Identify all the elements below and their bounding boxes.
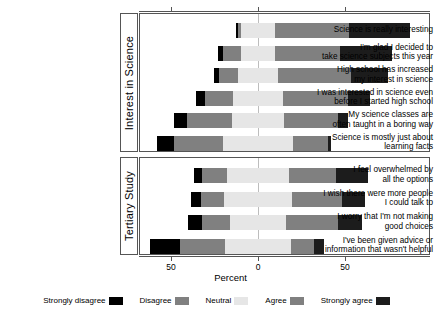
panel-strip-text: Tertiary Study: [123, 171, 135, 241]
legend-item: Agree: [265, 296, 303, 305]
chart-legend: Strongly disagreeDisagreeNeutralAgreeStr…: [0, 296, 433, 305]
legend-swatch: [290, 297, 304, 305]
bar-segment-disagree: [180, 239, 225, 254]
bar-segment-strongly-disagree: [174, 113, 186, 128]
legend-swatch: [376, 297, 390, 305]
bar-segment-neutral: [233, 91, 283, 106]
bar-segment-strongly-disagree: [157, 136, 174, 151]
legend-item: Strongly disagree: [43, 296, 122, 305]
top-axis-tick: [258, 7, 259, 11]
y-axis-item-label: My science classes areoften taught in a …: [315, 110, 433, 129]
bar-segment-neutral: [224, 192, 292, 207]
bar-segment-strongly-disagree: [196, 91, 205, 106]
legend-label: Disagree: [140, 296, 172, 305]
bottom-axis-tick: [345, 257, 346, 261]
y-axis-item-label: I feel overwhelmed byall the options: [315, 165, 433, 184]
y-axis-item-label: High school has increasedmy interest in …: [315, 65, 433, 84]
bar-segment-neutral: [230, 215, 286, 230]
bar-segment-strongly-disagree: [150, 239, 180, 254]
y-axis-item-label: I worry that I'm not makinggood choices: [315, 212, 433, 231]
legend-item: Strongly agree: [321, 296, 390, 305]
top-axis-tick: [171, 7, 172, 11]
bar-segment-disagree: [202, 168, 226, 183]
panel-strip-label-interest: Interest in Science: [120, 13, 138, 152]
bar-segment-neutral: [238, 68, 278, 83]
x-axis-title: Percent: [14, 272, 438, 283]
x-tick-label: 0: [243, 262, 273, 272]
panel-strip-text: Interest in Science: [123, 35, 135, 129]
legend-item: Neutral: [206, 296, 249, 305]
legend-label: Strongly disagree: [43, 296, 105, 305]
x-tick-label: 50: [156, 262, 186, 272]
legend-label: Neutral: [206, 296, 232, 305]
bar-segment-disagree: [174, 136, 223, 151]
bar-segment-strongly-disagree: [194, 168, 203, 183]
legend-item: Disagree: [140, 296, 189, 305]
bar-segment-disagree: [219, 68, 238, 83]
top-axis-line: [139, 11, 430, 12]
bar-segment-neutral: [225, 239, 291, 254]
bar-segment-disagree: [205, 91, 233, 106]
bottom-axis-tick: [258, 257, 259, 261]
bar-segment-disagree: [187, 113, 232, 128]
bar-segment-disagree: [223, 46, 240, 61]
bar-segment-disagree: [202, 215, 230, 230]
legend-label: Agree: [265, 296, 286, 305]
bar-segment-strongly-disagree: [188, 215, 202, 230]
bar-segment-neutral: [241, 23, 274, 38]
bar-segment-disagree: [201, 192, 224, 207]
bar-segment-strongly-disagree: [191, 192, 201, 207]
y-axis-item-label: I'm glad I decided totake science subjec…: [315, 43, 433, 62]
legend-swatch: [109, 297, 123, 305]
legend-label: Strongly agree: [321, 296, 373, 305]
top-axis-tick: [345, 7, 346, 11]
legend-swatch: [175, 297, 189, 305]
y-axis-item-label: Science is really interesting: [315, 25, 433, 35]
bar-segment-neutral: [227, 168, 290, 183]
y-axis-item-label: I've been given advice orinformation tha…: [315, 236, 433, 255]
y-axis-item-label: Science is mostly just aboutlearning fac…: [315, 133, 433, 152]
panel-strip-label-tertiary: Tertiary Study: [120, 157, 138, 255]
bottom-axis-line: [139, 256, 430, 257]
bar-segment-agree: [291, 239, 314, 254]
legend-swatch: [234, 297, 248, 305]
bar-segment-neutral: [223, 136, 293, 151]
y-axis-item-label: I wish there were more peopleI could tal…: [315, 189, 433, 208]
x-tick-label: 50: [330, 262, 360, 272]
bottom-axis-tick: [171, 257, 172, 261]
y-axis-item-label: I was interested in science evenbefore I…: [315, 88, 433, 107]
bar-segment-neutral: [241, 46, 276, 61]
bar-segment-neutral: [232, 113, 284, 128]
